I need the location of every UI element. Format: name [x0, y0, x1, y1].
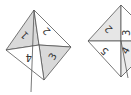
- label-4: 4: [26, 52, 32, 63]
- folded-paper-diagram: 1 2 3 4 2 5 3 4: [0, 0, 131, 95]
- region-2-right: [88, 5, 121, 41]
- figure-left: 1 2 3 4: [6, 10, 71, 92]
- label-3-right: 3: [121, 30, 131, 36]
- region-2: [34, 10, 71, 47]
- region-5-right: [88, 41, 121, 77]
- figure-right: 2 5 3 4: [88, 5, 131, 78]
- region-4: [6, 45, 44, 80]
